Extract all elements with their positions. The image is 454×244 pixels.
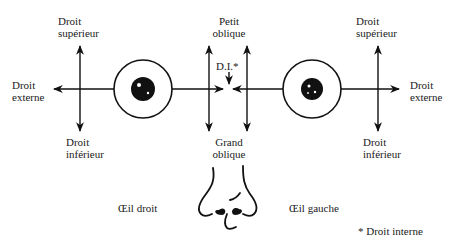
droit-interne-abbrev-label: D.I.* xyxy=(216,60,239,72)
footnote: * Droit interne xyxy=(358,225,423,237)
nose-icon xyxy=(199,166,256,229)
left-inferior-rectus-label: Droit inférieur xyxy=(66,136,104,160)
right-eye-group xyxy=(233,46,399,131)
right-pupil-icon xyxy=(301,78,323,100)
left-eye-name-label: Œil gauche xyxy=(289,202,339,214)
grand-oblique-label: Grand oblique xyxy=(206,136,252,160)
left-eye-group xyxy=(54,46,223,131)
right-inferior-rectus-label: Droit inférieur xyxy=(363,136,401,160)
right-superior-rectus-label: Droit supérieur xyxy=(356,15,397,39)
petit-oblique-label: Petit oblique xyxy=(207,15,251,39)
left-superior-rectus-label: Droit supérieur xyxy=(58,15,99,39)
left-pupil-icon xyxy=(131,77,155,101)
right-eye-name-label: Œil droit xyxy=(118,202,157,214)
left-external-rectus-label: Droit externe xyxy=(12,79,44,103)
right-external-rectus-label: Droit externe xyxy=(410,79,442,103)
